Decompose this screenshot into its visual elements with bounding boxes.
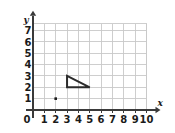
y-tick-label-7: 7 bbox=[25, 25, 32, 36]
x-tick-label-5: 5 bbox=[86, 114, 93, 125]
gridlines bbox=[33, 24, 147, 110]
axis-name-labels: xy bbox=[22, 15, 163, 108]
plotted-points bbox=[54, 97, 57, 100]
x-tick-label-3: 3 bbox=[64, 114, 71, 125]
y-axis-tick-labels: 1234567 bbox=[25, 25, 32, 104]
y-axis-arrow bbox=[30, 11, 36, 16]
y-tick-label-2: 2 bbox=[25, 82, 32, 93]
x-tick-label-6: 6 bbox=[98, 114, 105, 125]
plotted-point bbox=[54, 97, 57, 100]
x-axis-tick-labels: 012345678910 bbox=[24, 114, 154, 125]
x-axis-label: x bbox=[157, 98, 164, 108]
y-tick-label-3: 3 bbox=[25, 71, 32, 82]
x-tick-label-7: 7 bbox=[109, 114, 116, 125]
x-tick-label-2: 2 bbox=[52, 114, 59, 125]
x-tick-label-4: 4 bbox=[75, 114, 82, 125]
y-tick-label-6: 6 bbox=[25, 37, 32, 48]
origin-label: 0 bbox=[24, 114, 31, 125]
coordinate-plane-figure: 012345678910 1234567 xy bbox=[0, 0, 175, 133]
x-tick-label-1: 1 bbox=[41, 114, 48, 125]
y-tick-label-4: 4 bbox=[25, 59, 32, 70]
y-tick-label-5: 5 bbox=[25, 48, 32, 59]
y-axis-label: y bbox=[22, 15, 29, 25]
coordinate-grid-chart: 012345678910 1234567 xy bbox=[0, 0, 175, 133]
x-tick-label-10: 10 bbox=[140, 114, 154, 125]
y-tick-label-1: 1 bbox=[25, 93, 32, 104]
x-tick-label-8: 8 bbox=[120, 114, 127, 125]
x-tick-label-9: 9 bbox=[132, 114, 139, 125]
